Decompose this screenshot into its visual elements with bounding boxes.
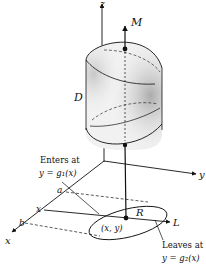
point-xy-label: (x, y): [101, 223, 123, 233]
diagram-canvas: z M D y x Enters at y = g₁(x) a x b R (x…: [0, 0, 206, 266]
tick-x-label: x: [36, 204, 41, 214]
z-axis-label: z: [99, 0, 105, 9]
leaves-label-line2: y = g₂(x): [161, 253, 200, 263]
enters-leader: [62, 182, 99, 214]
solid-d: [86, 41, 162, 150]
diagram-svg: z M D y x Enters at y = g₁(x) a x b R (x…: [0, 0, 206, 266]
vertical-line-to-r: [123, 143, 127, 218]
enters-label-line1: Enters at: [40, 155, 80, 165]
dashed-line-a: [66, 192, 148, 202]
l-label: L: [172, 217, 180, 228]
y-axis: [104, 161, 196, 174]
enters-label-line2: y = g₁(x): [38, 168, 77, 178]
y-axis-label: y: [198, 169, 205, 180]
m-arrow: [123, 26, 128, 51]
dashed-line-b: [25, 223, 100, 236]
point-xy: [124, 216, 129, 221]
tick-a-label: a: [57, 185, 62, 195]
m-label: M: [130, 16, 143, 29]
top-point: [123, 47, 128, 52]
x-axis-label: x: [5, 235, 11, 246]
tick-b-label: b: [19, 218, 25, 228]
leaves-label-line1: Leaves at: [162, 240, 204, 250]
d-label: D: [73, 91, 83, 104]
region-r: [86, 200, 170, 247]
r-label: R: [135, 207, 144, 218]
line-l: [44, 210, 170, 222]
